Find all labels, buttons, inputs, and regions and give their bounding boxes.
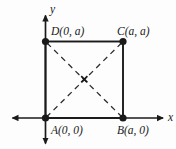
vertex-label-d: D(0, a) <box>50 25 84 38</box>
coordinate-geometry-figure: D(0, a) C(a, a) A(0, 0) B(a, 0) y x <box>0 0 176 149</box>
vertex-dot-d <box>42 38 49 45</box>
vertex-label-a: A(0, 0) <box>50 124 83 137</box>
vertex-dot-a <box>42 114 49 121</box>
vertex-label-c: C(a, a) <box>117 25 150 38</box>
diagonal-intersection-marker <box>81 76 87 82</box>
y-axis-label: y <box>49 3 56 16</box>
x-axis-label: x <box>167 111 174 123</box>
vertex-dot-b <box>119 114 126 121</box>
diagram-canvas: D(0, a) C(a, a) A(0, 0) B(a, 0) y x <box>0 0 176 149</box>
vertex-dot-c <box>119 38 126 45</box>
vertex-label-b: B(a, 0) <box>117 124 149 137</box>
